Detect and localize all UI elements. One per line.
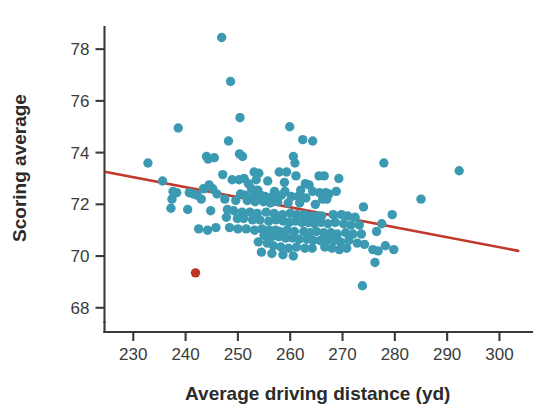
data-point — [278, 250, 287, 259]
data-point — [285, 122, 294, 131]
data-point — [331, 218, 340, 227]
data-point — [372, 227, 381, 236]
data-point — [166, 204, 175, 213]
data-point — [206, 206, 215, 215]
data-point — [235, 113, 244, 122]
data-point — [280, 178, 289, 187]
data-point — [224, 136, 233, 145]
y-axis-tick-label: 72 — [71, 195, 90, 214]
data-point — [257, 247, 266, 256]
data-point — [322, 194, 331, 203]
data-point — [290, 158, 299, 167]
data-point — [234, 175, 243, 184]
plot-svg: 687072747678230240250260270280290300Aver… — [0, 0, 545, 419]
data-point — [342, 244, 351, 253]
data-point — [261, 207, 270, 216]
data-point — [370, 258, 379, 267]
data-point — [226, 77, 235, 86]
data-point — [311, 200, 320, 209]
data-point — [243, 196, 252, 205]
data-point — [242, 224, 251, 233]
data-point — [332, 187, 341, 196]
data-point — [211, 223, 220, 232]
y-axis-tick-label: 76 — [71, 92, 90, 111]
data-point — [231, 196, 240, 205]
x-axis-tick-label: 270 — [328, 345, 356, 364]
data-point — [174, 123, 183, 132]
x-axis-tick-label: 280 — [381, 345, 409, 364]
data-point — [218, 170, 227, 179]
data-point — [308, 136, 317, 145]
data-point — [389, 245, 398, 254]
data-point — [355, 220, 364, 229]
data-point — [254, 237, 263, 246]
scatter-plot-figure: 687072747678230240250260270280290300Aver… — [0, 0, 545, 419]
data-point — [283, 198, 292, 207]
y-axis-tick-label: 78 — [71, 40, 90, 59]
x-axis-tick-label: 230 — [119, 345, 147, 364]
data-point — [212, 189, 221, 198]
data-point — [239, 214, 248, 223]
x-axis-tick-label: 250 — [224, 345, 252, 364]
data-point — [320, 171, 329, 180]
data-point — [346, 220, 355, 229]
x-axis-tick-label: 290 — [433, 345, 461, 364]
data-point — [233, 224, 242, 233]
data-point — [359, 202, 368, 211]
data-point — [267, 249, 276, 258]
data-point — [255, 215, 264, 224]
data-point — [291, 171, 300, 180]
data-point — [158, 176, 167, 185]
data-point — [197, 194, 206, 203]
data-points-group — [143, 33, 464, 291]
data-point — [220, 194, 229, 203]
data-point — [167, 194, 176, 203]
y-axis-title: Scoring average — [9, 94, 30, 242]
data-point — [307, 244, 316, 253]
data-point — [373, 246, 382, 255]
x-axis-tick-label: 300 — [485, 345, 513, 364]
data-point — [357, 229, 366, 238]
data-point — [454, 166, 463, 175]
data-point — [250, 197, 259, 206]
data-point — [273, 197, 282, 206]
x-axis-tick-label: 260 — [276, 345, 304, 364]
data-point — [292, 242, 301, 251]
data-point — [416, 194, 425, 203]
data-point — [194, 224, 203, 233]
data-point — [358, 281, 367, 290]
data-point — [222, 213, 231, 222]
data-point — [289, 251, 298, 260]
data-point — [183, 205, 192, 214]
x-axis-tick-label: 240 — [171, 345, 199, 364]
data-point — [379, 158, 388, 167]
data-point — [295, 198, 304, 207]
data-point — [238, 152, 247, 161]
data-point — [360, 240, 369, 249]
data-point — [203, 225, 212, 234]
data-point — [377, 219, 386, 228]
data-point — [225, 223, 234, 232]
data-point — [334, 174, 343, 183]
y-axis-tick-label: 68 — [71, 299, 90, 318]
y-axis-tick-label: 74 — [71, 144, 90, 163]
data-point — [203, 154, 212, 163]
highlighted-data-point — [191, 268, 200, 277]
data-point — [143, 158, 152, 167]
data-point — [298, 135, 307, 144]
data-point — [388, 210, 397, 219]
data-point — [217, 33, 226, 42]
data-point — [282, 167, 291, 176]
data-point — [263, 176, 272, 185]
x-axis-title: Average driving distance (yd) — [185, 383, 450, 404]
y-axis-tick-label: 70 — [71, 247, 90, 266]
